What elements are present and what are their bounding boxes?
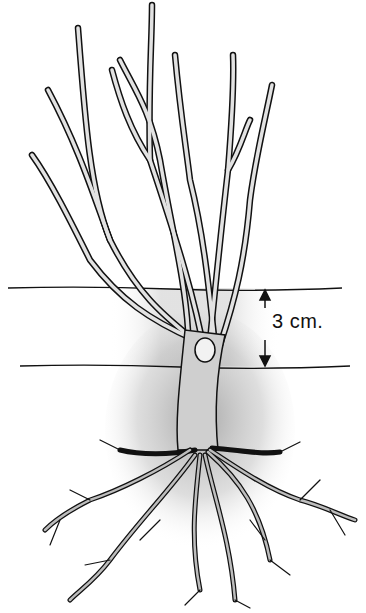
upper-soil-line xyxy=(8,287,342,290)
depth-measurement-label: 3 cm. xyxy=(272,310,323,333)
rose-bush-illustration xyxy=(0,0,366,613)
graft-union xyxy=(195,338,215,362)
